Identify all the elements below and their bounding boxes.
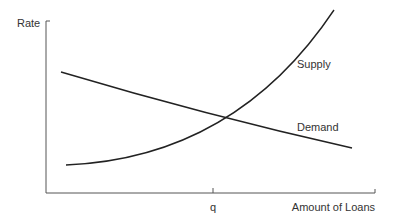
loan-market-diagram: Rate Amount of Loans q Supply Demand (0, 0, 394, 224)
supply-label: Supply (297, 58, 331, 70)
supply-curve (66, 10, 334, 165)
x-axis (46, 189, 375, 193)
x-tick-label-q: q (210, 201, 216, 213)
x-axis-label: Amount of Loans (292, 201, 376, 213)
y-axis-label: Rate (17, 17, 40, 29)
demand-curve (61, 72, 352, 148)
demand-label: Demand (297, 121, 339, 133)
y-axis (46, 21, 50, 193)
